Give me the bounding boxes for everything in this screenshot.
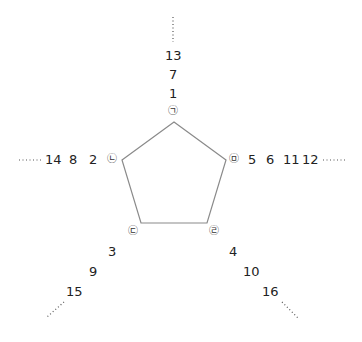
vertex-marker-left: ㉡ [107,154,117,164]
top-number-3: 13 [165,49,182,62]
right-number-3: 11 [283,153,300,166]
vertex-marker-top: ㉠ [168,106,178,116]
right-number-2: 6 [266,153,274,166]
ellipsis-bottom-right [282,302,298,318]
left-number-1: 2 [89,153,97,166]
bottom-left-number-3: 15 [66,285,83,298]
bottom-left-number-2: 9 [89,265,97,278]
right-number-1: 5 [248,153,256,166]
left-number-3: 14 [45,153,62,166]
bottom-right-number-3: 16 [262,285,279,298]
ellipsis-bottom-left [47,302,64,317]
vertex-marker-right: ㉤ [229,154,239,164]
bottom-right-number-1: 4 [229,245,237,258]
right-number-4: 12 [302,153,319,166]
bottom-left-number-1: 3 [108,245,116,258]
left-number-2: 8 [69,153,77,166]
vertex-marker-bottom-right: ㉣ [209,226,219,236]
top-number-2: 7 [169,68,177,81]
vertex-marker-bottom-left: ㉢ [128,226,138,236]
bottom-right-number-2: 10 [243,265,260,278]
pentagon-shape [122,122,226,223]
top-number-1: 1 [169,87,177,100]
